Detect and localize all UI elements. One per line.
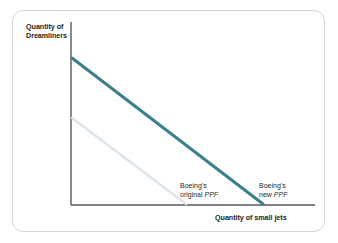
x-axis-label: Quantity of small jets xyxy=(215,213,287,222)
new-ppf-label-line2-italic: PPF xyxy=(274,191,288,198)
y-axis-label: Quantity of Dreamliners xyxy=(26,22,67,40)
new-ppf-label-line2-prefix: new xyxy=(259,191,274,198)
y-axis-label-line1: Quantity of xyxy=(26,22,63,31)
ppf-chart-figure: Quantity of Dreamliners Quantity of smal… xyxy=(0,0,338,243)
new-ppf-line xyxy=(72,58,263,204)
y-axis-label-line2: Dreamliners xyxy=(26,31,67,40)
new-ppf-label-line1: Boeing's xyxy=(259,182,286,189)
original-ppf-label: Boeing's original PPF xyxy=(180,181,218,199)
original-ppf-label-line2-prefix: original xyxy=(180,191,205,198)
original-ppf-label-line1: Boeing's xyxy=(180,182,207,189)
original-ppf-label-line2-italic: PPF xyxy=(205,191,219,198)
new-ppf-label: Boeing's new PPF xyxy=(259,181,287,199)
